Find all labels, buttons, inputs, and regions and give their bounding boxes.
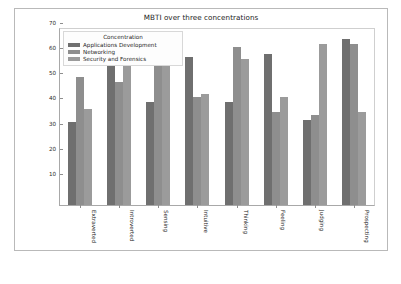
x-axis-tick-label: Sensing (163, 210, 169, 232)
x-axis-tick-mark (276, 205, 277, 208)
bar (311, 115, 319, 206)
bar (84, 109, 92, 205)
bar (107, 59, 115, 205)
bar (272, 112, 280, 205)
legend-swatch-icon (68, 50, 80, 54)
legend-title: Concentration (68, 34, 178, 40)
x-axis-tick-mark (315, 205, 316, 208)
x-axis-tick-label: Judging (320, 210, 326, 231)
x-axis-tick-label: Introverted (128, 210, 134, 241)
x-axis-tick-mark (197, 205, 198, 208)
bar-group (256, 29, 295, 205)
legend-swatch-icon (68, 43, 80, 47)
legend-item: Networking (68, 49, 178, 55)
y-axis-tick-label: 20 (49, 146, 60, 152)
y-axis-tick-label: 10 (49, 171, 60, 177)
chart-legend: Concentration Applications Development N… (63, 31, 183, 66)
y-axis-tick-label: 50 (49, 70, 60, 76)
bar (76, 77, 84, 205)
legend-item: Applications Development (68, 42, 178, 48)
x-axis-tick-mark (237, 205, 238, 208)
bar (154, 59, 162, 205)
bar (115, 82, 123, 205)
x-axis-tick-mark (354, 205, 355, 208)
chart-figure: MBTI over three concentrations 102030405… (14, 8, 388, 251)
bar-group (178, 29, 217, 205)
bar (319, 44, 327, 205)
x-axis-tick-label: Prospecting (365, 210, 371, 243)
y-axis-tick-label: 60 (49, 45, 60, 51)
x-axis-tick-label: Thinking (243, 210, 249, 234)
legend-item-label: Networking (83, 49, 115, 55)
bar (350, 44, 358, 205)
bar (193, 97, 201, 205)
x-axis-tick-label: Extraverted (90, 210, 96, 243)
bar (225, 102, 233, 205)
y-axis-tick-label: 30 (49, 121, 60, 127)
bar (146, 102, 154, 205)
chart-title: MBTI over three concentrations (15, 13, 387, 22)
x-axis-tick-mark (80, 205, 81, 208)
bar (162, 62, 170, 205)
bar-group (217, 29, 256, 205)
x-axis-tick-mark (158, 205, 159, 208)
y-axis-tick-label: 40 (49, 95, 60, 101)
y-axis-tick-label: 70 (49, 20, 60, 26)
bar (68, 122, 76, 205)
bar (233, 47, 241, 205)
x-axis-tick-label: Intuitive (203, 210, 209, 233)
legend-item-label: Security and Forensics (83, 56, 146, 62)
bar (280, 97, 288, 205)
bar (241, 59, 249, 205)
bar (342, 39, 350, 205)
bar-group (296, 29, 335, 205)
x-axis-tick-mark (119, 205, 120, 208)
bar (358, 112, 366, 205)
bar (264, 54, 272, 205)
bar (123, 59, 131, 205)
legend-item: Security and Forensics (68, 56, 178, 62)
legend-item-label: Applications Development (83, 42, 157, 48)
bar-group (335, 29, 374, 205)
x-axis-tick-label: Feeling (280, 210, 286, 230)
bar (185, 57, 193, 205)
bar (201, 94, 209, 205)
bar (303, 120, 311, 205)
legend-swatch-icon (68, 57, 80, 61)
